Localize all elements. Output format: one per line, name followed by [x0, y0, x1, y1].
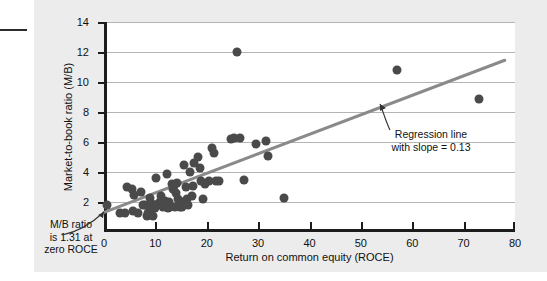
y-tick-label: 4 [83, 166, 89, 178]
x-tick-label: 60 [406, 237, 418, 249]
scatter-point [252, 139, 261, 148]
x-tick [258, 222, 260, 229]
y-tick-label: 10 [77, 76, 89, 88]
y-tick: 12 [98, 52, 104, 54]
scatter-point [209, 148, 218, 157]
y-tick: 14 [98, 22, 104, 24]
scatter-point [152, 174, 161, 183]
x-tick [361, 222, 363, 229]
y-tick-label: 6 [83, 136, 89, 148]
scatter-point [475, 94, 484, 103]
regression-annotation: Regression line with slope = 0.13 [369, 128, 493, 153]
scatter-point [279, 193, 288, 202]
scatter-point [194, 153, 203, 162]
gridline [107, 82, 515, 83]
x-tick [464, 222, 466, 229]
y-tick: 8 [98, 112, 104, 114]
y-tick-label: 14 [77, 16, 89, 28]
x-tick-label: 40 [303, 237, 315, 249]
x-tick-label: 20 [201, 237, 213, 249]
y-axis-title: Market-to-book ratio (M/B) [60, 22, 76, 232]
scatter-point [392, 66, 401, 75]
y-tick-label: 2 [83, 196, 89, 208]
x-tick-label: 10 [149, 237, 161, 249]
scatter-point [262, 136, 271, 145]
y-tick: 6 [98, 142, 104, 144]
scatter-point [102, 201, 111, 210]
gridline [107, 52, 515, 53]
x-tick [412, 222, 414, 229]
intercept-annotation-line1: M/B ratio [36, 218, 106, 231]
gridline [107, 112, 515, 113]
intercept-annotation-line2: is 1.31 at [36, 231, 106, 244]
regression-annotation-line2: with slope = 0.13 [369, 141, 493, 154]
scatter-point [172, 178, 181, 187]
x-axis-title: Return on common equity (ROCE) [104, 251, 515, 263]
x-tick [207, 222, 209, 229]
y-tick-label: 12 [77, 46, 89, 58]
scatter-point [198, 195, 207, 204]
gridline [107, 22, 515, 23]
left-margin-rule [0, 29, 27, 31]
x-tick-label: 50 [355, 237, 367, 249]
x-tick [513, 222, 515, 229]
x-tick [155, 222, 157, 229]
scatter-point [162, 169, 171, 178]
intercept-annotation: M/B ratio is 1.31 at zero ROCE [36, 218, 106, 256]
y-tick: 10 [98, 82, 104, 84]
x-tick-label: 80 [509, 237, 521, 249]
scatter-point [187, 192, 196, 201]
scatter-point [186, 168, 195, 177]
x-tick [310, 222, 312, 229]
x-axis-line [104, 229, 515, 232]
scatter-point [240, 175, 249, 184]
scatter-point [233, 48, 242, 57]
scatter-point [136, 187, 145, 196]
scatter-point [264, 151, 273, 160]
y-tick-label: 8 [83, 106, 89, 118]
scatter-point [235, 133, 244, 142]
intercept-annotation-line3: zero ROCE [36, 243, 106, 256]
scatter-point [215, 177, 224, 186]
x-tick-label: 30 [252, 237, 264, 249]
x-tick-label: 70 [458, 237, 470, 249]
plot-area: 2468101214 01020304050607080 [104, 22, 515, 232]
scatter-point [195, 163, 204, 172]
y-tick: 4 [98, 172, 104, 174]
regression-annotation-line1: Regression line [369, 128, 493, 141]
scatter-point [184, 201, 193, 210]
chart-figure: Market-to-book ratio (M/B) 2468101214 01… [0, 0, 547, 281]
